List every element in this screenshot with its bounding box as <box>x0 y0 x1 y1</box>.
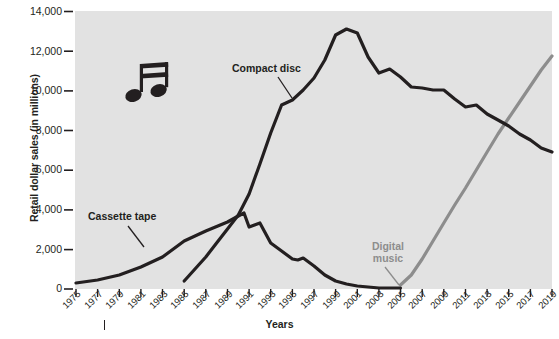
x-axis-title: Years <box>0 318 559 330</box>
series-label-digital-music-line2: music <box>373 252 403 264</box>
leader-line-compact-disc <box>278 77 292 98</box>
stray-tick-mark <box>104 320 105 330</box>
music-note-icon <box>122 62 176 106</box>
series-label-digital-music-line1: Digital <box>372 240 404 252</box>
series-label-cassette-tape: Cassette tape <box>88 210 156 222</box>
series-line-digital-music <box>401 56 553 285</box>
y-axis-ticks <box>64 12 73 290</box>
retail-music-sales-line-chart: Retail dollar sales (in millions) 14,000… <box>0 0 559 339</box>
series-label-compact-disc: Compact disc <box>232 62 301 74</box>
series-line-cassette-tape <box>76 213 401 288</box>
series-label-digital-music: Digital music <box>358 240 418 264</box>
chart-svg <box>0 0 559 339</box>
leader-line-cassette-tape <box>128 226 144 247</box>
leader-line-digital-music <box>385 267 399 285</box>
